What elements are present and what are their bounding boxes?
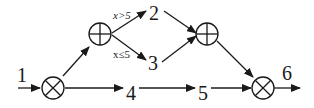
- flow-diagram: 1 2 3 4 5 6 x>5 x≤5: [0, 0, 314, 108]
- edge-xor-join-to-and-join: [217, 41, 253, 77]
- edge-2-to-xor-join: [164, 11, 196, 33]
- label-node-3: 3: [148, 52, 158, 74]
- and-join-node: [252, 77, 274, 99]
- condition-to-2: x>5: [112, 9, 131, 21]
- label-node-6: 6: [282, 62, 292, 84]
- and-split-node: [42, 77, 64, 99]
- condition-to-3: x≤5: [113, 48, 131, 60]
- label-node-4: 4: [126, 82, 136, 104]
- edge-3-to-xor-join: [162, 36, 196, 62]
- label-node-2: 2: [149, 2, 159, 24]
- xor-split-node: [89, 23, 111, 45]
- label-node-1: 1: [17, 64, 27, 86]
- edge-and-split-to-xor-split: [63, 47, 89, 76]
- label-node-5: 5: [198, 82, 208, 104]
- xor-join-node: [196, 23, 218, 45]
